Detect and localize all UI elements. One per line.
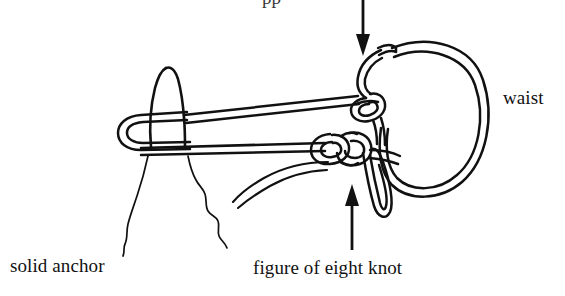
anchor-loop [118, 112, 190, 150]
arrow-down-to-waist-knot [356, 0, 370, 56]
arrow-up-to-figure-of-eight-knot [345, 184, 359, 250]
label-figure-of-eight-knot: figure of eight knot [253, 258, 402, 278]
upper-strand [184, 96, 359, 123]
label-waist: waist [503, 88, 544, 108]
knot-diagram-illustration [0, 0, 565, 296]
waist-loop [378, 42, 488, 197]
clipped-top-label: pp [262, 0, 281, 8]
rope-tail [233, 162, 328, 208]
label-solid-anchor: solid anchor [10, 256, 105, 276]
rock-spike [123, 67, 227, 256]
figure-canvas: pp solid anchor figure of eight knot wai… [0, 0, 565, 296]
